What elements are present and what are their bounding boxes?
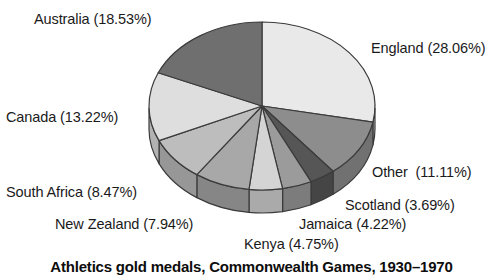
chart-caption: Athletics gold medals, Commonwealth Game… <box>0 259 503 274</box>
slice-label-canada: Canada (13.22%) <box>6 110 118 125</box>
slice-label-kenya: Kenya (4.75%) <box>244 237 339 252</box>
slice-label-jamaica: Jamaica (4.22%) <box>299 217 406 232</box>
slice-label-australia: Australia (18.53%) <box>34 12 151 27</box>
pie-chart-figure: Australia (18.53%) England (28.06%) Cana… <box>0 0 503 276</box>
pie-slices-group <box>149 22 375 213</box>
slice-label-scotland: Scotland (3.69%) <box>345 198 455 213</box>
slice-label-south-africa: South Africa (8.47%) <box>6 185 137 200</box>
slice-label-other: Other (11.11%) <box>372 165 472 180</box>
slice-label-new-zealand: New Zealand (7.94%) <box>55 217 193 232</box>
slice-label-england: England (28.06%) <box>371 41 485 56</box>
pie-slice-wall-kenya <box>249 189 283 213</box>
pie-slice-england <box>262 22 375 122</box>
